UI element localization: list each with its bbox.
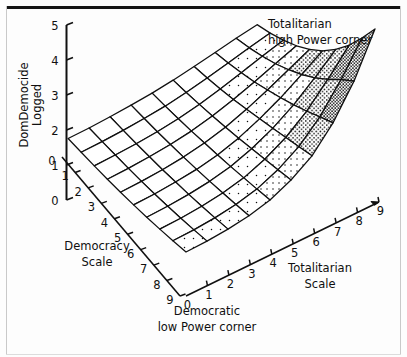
x-axis-tick-label: 4 — [270, 256, 277, 270]
annotation-totalitarian-high-power: Totalitarian high Power corner — [267, 17, 372, 47]
y-axis-tick-label: 7 — [140, 262, 147, 276]
y-axis-tick-label: 2 — [75, 185, 82, 199]
y-axis-tick — [128, 232, 134, 234]
x-axis-tick — [249, 260, 250, 265]
x-axis-tick — [206, 281, 207, 286]
y-axis-tick-label: 8 — [153, 278, 160, 292]
x-axis-tick-label: 6 — [313, 235, 320, 249]
z-axis-tick-label: 2 — [51, 124, 58, 138]
z-axis-title: DomDemocide Logged — [17, 62, 44, 147]
y-axis-tick — [141, 248, 147, 250]
y-axis-title-line1: Democracy — [64, 239, 130, 253]
y-axis-tick-label: 9 — [166, 293, 173, 307]
x-axis-title-line2: Scale — [305, 277, 336, 291]
x-axis-tick-label: 7 — [334, 225, 341, 239]
annotation-democratic-line2: low Power corner — [158, 320, 257, 334]
annotation-democratic-low-power: Democratic low Power corner — [158, 304, 257, 334]
annotation-totalitarian-line1: Totalitarian — [267, 17, 332, 31]
z-axis-title-line2: Logged — [30, 84, 44, 126]
y-axis-tick-label: 4 — [101, 216, 108, 230]
y-axis-tick — [88, 186, 94, 188]
x-axis-tick-label: 8 — [355, 214, 362, 228]
y-axis-tick — [180, 294, 186, 296]
x-axis-tick — [335, 218, 336, 223]
y-axis-tick — [75, 170, 81, 172]
z-axis-tick-label: 5 — [51, 19, 58, 33]
x-axis-tick-label: 2 — [227, 277, 234, 291]
z-axis-tick-label: 3 — [51, 89, 58, 103]
z-axis-tick-label: 4 — [51, 54, 58, 68]
x-axis-tick — [378, 197, 379, 202]
y-axis-tick — [154, 263, 160, 265]
x-axis-tick-label: 9 — [377, 204, 384, 218]
x-axis-tick-label: 3 — [248, 267, 255, 281]
z-axis-title-line1: DomDemocide — [17, 62, 31, 147]
x-axis-tick — [271, 249, 272, 254]
y-axis-title-line2: Scale — [82, 255, 113, 269]
z-axis-tick — [67, 23, 74, 26]
y-axis-tick — [167, 279, 173, 281]
x-axis-tick — [314, 228, 315, 233]
y-axis-tick-label: 0 — [48, 154, 55, 168]
y-axis-tick-label: 3 — [88, 200, 95, 214]
y-axis-tick — [114, 217, 120, 219]
y-axis-tick-label: 1 — [61, 169, 68, 183]
x-axis-title: Totalitarian Scale — [287, 261, 352, 291]
y-axis-title: Democracy Scale — [64, 239, 130, 269]
x-axis-tick-label: 1 — [205, 288, 212, 302]
annotation-totalitarian-line2: high Power corner — [268, 33, 372, 47]
x-axis-tick — [228, 270, 229, 275]
x-axis-tick — [357, 207, 358, 212]
x-axis-tick-label: 5 — [291, 246, 298, 260]
surface-plot-canvas: 01234501234567890123456789 Totalitarian … — [0, 0, 407, 357]
annotation-democratic-line1: Democratic — [174, 304, 240, 318]
z-axis-tick-label: 0 — [51, 194, 58, 208]
x-axis-tick — [292, 239, 293, 244]
y-axis-tick — [101, 201, 107, 203]
figure-surface-plot: 01234501234567890123456789 Totalitarian … — [0, 0, 407, 357]
x-axis-title-line1: Totalitarian — [287, 261, 352, 275]
